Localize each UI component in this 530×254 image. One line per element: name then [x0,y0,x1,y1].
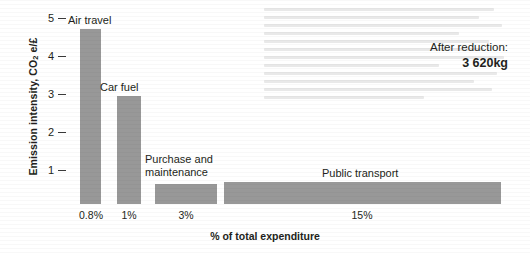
y-axis-title-suffix: e/£ [27,38,39,56]
x-tick-label-0: 0.8% [66,209,116,221]
y-tick-1-mark [58,170,66,171]
annotation-after-reduction: After reduction: 3 620kg [430,41,508,70]
bar-public-transport[interactable] [224,182,501,204]
y-tick-2-mark [58,132,66,133]
y-tick-1-label: 1 [42,164,54,176]
annotation-value: 3 620kg [430,56,508,70]
bar-label-purchase-and-maintenance: Purchase and maintenance [145,153,237,179]
y-tick-4-label: 4 [42,50,54,62]
x-axis-title: % of total expenditure [0,230,530,242]
y-tick-3-label: 3 [42,88,54,100]
x-tick-label-3: 15% [340,209,384,221]
y-tick-2-label: 2 [42,126,54,138]
y-tick-5-mark [58,18,66,19]
bar-label-car-fuel: Car fuel [100,81,139,94]
x-tick-label-2: 3% [162,209,210,221]
bar-purchase-and-maintenance[interactable] [155,184,217,204]
y-tick-3: 3 [42,88,66,100]
y-tick-5: 5 [42,12,66,24]
x-tick-label-1: 1% [110,209,148,221]
bar-air-travel[interactable] [80,29,101,204]
y-tick-4: 4 [42,50,66,62]
y-tick-5-label: 5 [42,12,54,24]
y-tick-2: 2 [42,126,66,138]
y-tick-1: 1 [42,164,66,176]
chart-figure: Emission intensity, CO2 e/£ 5 4 3 2 1 Ai… [0,0,530,254]
bar-label-public-transport: Public transport [322,167,398,180]
y-axis-title-subscript: 2 [31,55,40,59]
bar-car-fuel[interactable] [117,96,141,204]
bar-label-air-travel: Air travel [68,14,111,27]
y-tick-3-mark [58,94,66,95]
y-tick-4-mark [58,56,66,57]
y-axis-title-prefix: Emission intensity, CO [27,60,39,176]
annotation-heading: After reduction: [430,41,508,53]
y-axis-title: Emission intensity, CO2 e/£ [27,12,40,202]
